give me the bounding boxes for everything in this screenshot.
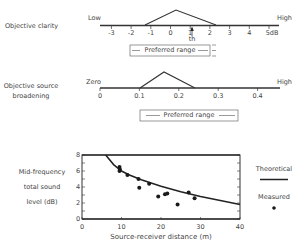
theoretical-curve [106,155,240,205]
legend-measured-swatch [272,206,276,210]
x-tick-label: 40 [236,224,244,231]
broadening-tick-label: 0.1 [134,93,144,100]
clarity-tick-label: -2 [128,30,134,37]
y-tick-label: 8 [76,152,80,159]
broadening-low-label: Zero [86,79,101,86]
ylabel-line3: level (dB) [26,199,57,206]
broadening-tick-label: 0 [98,93,102,100]
broadening-tick-label: 0.2 [174,93,184,100]
clarity-tick-label: -1 [148,30,154,37]
x-tick-label: 30 [196,224,204,231]
x-axis-label: Source-receiver distance (m) [110,234,211,241]
legend-measured-label: Measured [258,194,290,201]
measured-point [193,196,197,200]
measured-point [176,203,180,207]
clarity-tick-label: 2 [208,30,212,37]
ylabel-line1: Mid-frequency [19,169,66,176]
y-tick-label: 2 [76,200,80,207]
clarity-range-label: Preferred range [144,47,197,54]
measured-point [136,177,140,181]
y-tick-label: 4 [76,184,80,191]
clarity-triangle [145,10,216,25]
clarity-tick-label: 4 [247,30,251,37]
measured-point [147,182,151,186]
x-tick-label: 10 [117,224,125,231]
broadening-triangle [140,72,195,88]
broadening-tick-label: 0.4 [252,93,262,100]
plot-frame [82,155,240,219]
broadening-tick-label: 0.3 [213,93,223,100]
measured-point [118,169,122,173]
x-tick-label: 20 [157,224,165,231]
ylabel-line2: total sound [24,184,61,191]
measured-point [165,191,169,195]
x-tick-label: 0 [80,224,84,231]
measured-point [125,173,129,177]
measured-point [187,191,191,195]
y-tick-label: 6 [76,168,80,175]
measured-point [156,195,160,199]
broadening-title-line1: Objective source [4,83,58,90]
y-tick-label: 0 [76,216,80,223]
marker-th-label: th [189,36,196,43]
legend-theoretical-label: Theoretical [256,166,292,173]
measured-points [118,165,197,207]
measured-point [137,186,141,190]
clarity-tick-label: -3 [108,30,114,37]
broadening-high-label: High [277,79,292,86]
broadening-range-label: Preferred range [163,112,216,119]
clarity-tick-label: 5dB [266,30,279,37]
broadening-title-line2: broadening [13,93,50,100]
clarity-tick-label: 3 [228,30,232,37]
clarity-tick-label: 0 [168,30,172,37]
